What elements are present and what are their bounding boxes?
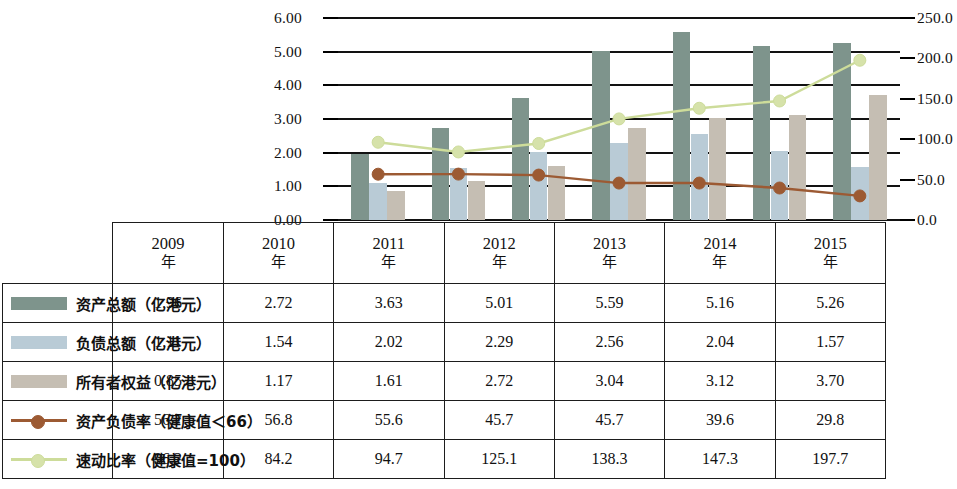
table-cell: 2.29 [444,323,554,362]
table-cell: 5.16 [665,284,775,323]
table-cell: 138.3 [554,440,664,479]
left-axis-tick-label: 6.00 [246,10,302,26]
table-cell: 94.7 [334,440,444,479]
year-header-cell: 2013年 [554,223,664,284]
line-marker [452,146,464,158]
table-cell: 2.56 [554,323,664,362]
table-cell: 1.61 [334,362,444,401]
legend-cell: 资产总额（亿港元） [3,284,113,323]
table-cell: 147.3 [665,440,775,479]
left-axis-tick-label: 1.00 [246,178,302,194]
table-header-row: 2009年2010年2011年2012年2013年2014年2015年 [3,223,886,284]
left-axis-tick [323,84,338,86]
table-row: 负债总额（亿港元）1.111.542.022.292.562.041.57 [3,323,886,362]
left-axis-tick [323,152,338,154]
legend-cell: 负债总额（亿港元） [3,323,113,362]
line-marker [693,177,705,189]
year-number: 2013 [555,235,664,254]
table-cell: 2.04 [665,323,775,362]
table-cell: 125.1 [444,440,554,479]
year-number: 2010 [224,235,333,254]
right-axis-tick [900,179,915,181]
left-axis-tick [323,17,338,19]
line-marker [372,168,384,180]
line-marker [372,136,384,148]
header-spacer-cell [3,223,113,284]
year-header-cell: 2012年 [444,223,554,284]
year-suffix: 年 [665,254,774,271]
left-axis-tick [323,118,338,120]
year-number: 2009 [113,235,222,254]
table-row: 资产总额（亿港元）1.962.723.635.015.595.165.26 [3,284,886,323]
table-cell: 1.54 [223,323,333,362]
plot-area [338,18,900,220]
right-axis-tick-label: 250.0 [917,10,957,26]
left-axis-tick-label: 3.00 [246,111,302,127]
legend-line-icon [11,453,67,466]
table-cell: 1.17 [223,362,333,401]
chart-area: 0.001.002.003.004.005.006.00 0.050.0100.… [0,0,938,222]
line-marker [613,113,625,125]
legend-swatch-icon [11,336,67,349]
table-cell: 2.02 [334,323,444,362]
left-axis-tick [323,185,338,187]
right-axis-tick [900,138,915,140]
right-axis-tick-label: 150.0 [917,91,957,107]
line-marker [533,169,545,181]
table-cell: 55.6 [334,401,444,440]
year-suffix: 年 [776,254,885,271]
legend-cell: 资产负债率（健康值＜66） [3,401,113,440]
table-cell: 3.04 [554,362,664,401]
year-suffix: 年 [445,254,554,271]
right-axis-tick-label: 100.0 [917,131,957,147]
year-header-cell: 2010年 [223,223,333,284]
table-cell: 5.59 [554,284,664,323]
table-cell: 3.63 [334,284,444,323]
line-marker [693,102,705,114]
table-cell: 29.8 [775,401,885,440]
table-cell: 5.26 [775,284,885,323]
line-marker [613,177,625,189]
line-marker [854,190,866,202]
left-axis-tick [323,51,338,53]
legend-swatch-icon [11,297,67,310]
table-cell: 2.72 [223,284,333,323]
year-suffix: 年 [224,254,333,271]
year-number: 2011 [334,235,443,254]
year-suffix: 年 [334,254,443,271]
legend-line-icon [11,414,67,427]
legend-label: 负债总额（亿港元） [76,332,211,353]
right-axis-tick-label: 200.0 [917,50,957,66]
line-marker [452,168,464,180]
year-suffix: 年 [555,254,664,271]
year-header-cell: 2015年 [775,223,885,284]
year-number: 2015 [776,235,885,254]
line-marker [774,95,786,107]
right-axis-tick [900,98,915,100]
left-axis-tick-label: 5.00 [246,44,302,60]
table-cell: 39.6 [665,401,775,440]
year-header-cell: 2009年 [113,223,223,284]
year-number: 2012 [445,235,554,254]
table-cell: 5.01 [444,284,554,323]
year-number: 2014 [665,235,774,254]
right-axis-tick [900,219,915,221]
line-series-overlay [338,18,900,220]
line-marker [774,182,786,194]
right-axis-tick-label: 0.0 [917,212,957,228]
table-row: 速动比率（健康值=100）96.284.294.7125.1138.3147.3… [3,440,886,479]
table-cell: 45.7 [444,401,554,440]
line-path [378,60,860,152]
left-axis-tick [323,219,338,221]
year-suffix: 年 [113,254,222,271]
data-table-wrapper: 2009年2010年2011年2012年2013年2014年2015年资产总额（… [2,222,886,479]
left-axis-tick-label: 4.00 [246,77,302,93]
year-header-cell: 2011年 [334,223,444,284]
legend-label: 资产总额（亿港元） [76,293,211,314]
table-cell: 3.12 [665,362,775,401]
table-cell: 3.70 [775,362,885,401]
table-row: 所有者权益（亿港元）0.851.171.612.723.043.123.70 [3,362,886,401]
data-table: 2009年2010年2011年2012年2013年2014年2015年资产总额（… [2,222,886,479]
line-marker [854,54,866,66]
legend-cell: 速动比率（健康值=100） [3,440,113,479]
